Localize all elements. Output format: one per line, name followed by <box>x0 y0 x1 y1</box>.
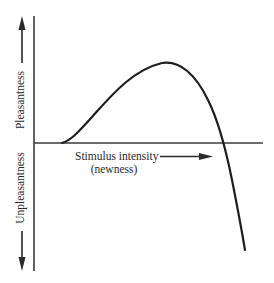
stimulus-intensity-label: Stimulus intensity <box>75 150 153 163</box>
newness-sublabel: (newness) <box>75 163 153 176</box>
wundt-curve-diagram <box>0 0 274 283</box>
pleasantness-label: Pleasantness <box>14 71 27 129</box>
arrow-down-icon <box>19 231 26 271</box>
unpleasantness-label: Unpleasantness <box>14 152 27 224</box>
arrow-up-icon <box>19 16 26 63</box>
arrow-right-icon <box>160 153 213 160</box>
x-axis-label: Stimulus intensity (newness) <box>75 150 153 176</box>
